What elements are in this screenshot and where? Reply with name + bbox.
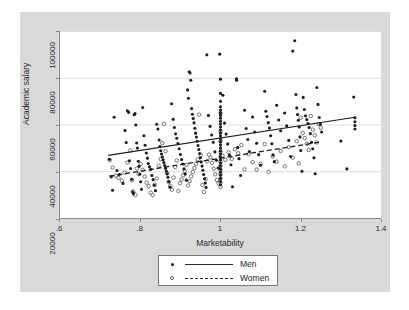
x-tick-mark: [220, 219, 221, 222]
y-tick-label: 40000: [48, 171, 57, 223]
y-tick-label: 60000: [48, 124, 57, 176]
legend-item-men: Men: [159, 257, 277, 271]
y-tick-label: 80000: [48, 77, 57, 129]
legend-label-women: Women: [237, 273, 269, 283]
chart-figure: Academic salary 200004000060000800001000…: [0, 0, 409, 310]
legend-open-circle-icon: [159, 276, 185, 280]
x-tick-mark: [301, 219, 302, 222]
scatter-canvas: [60, 31, 381, 218]
x-tick-mark: [381, 219, 382, 222]
x-tick-mark: [59, 219, 60, 222]
legend-solid-line-icon: [185, 264, 237, 265]
chart-legend: Men Women: [158, 255, 278, 286]
x-axis-title: Marketability: [59, 238, 381, 248]
x-tick-label: .6: [44, 224, 74, 233]
y-tick-label: 100000: [48, 30, 57, 82]
legend-label-men: Men: [237, 259, 257, 269]
x-tick-label: 1: [205, 224, 235, 233]
x-tick-label: 1.4: [366, 224, 396, 233]
y-tick-mark: [56, 125, 59, 126]
legend-item-women: Women: [159, 271, 277, 285]
x-tick-label: .8: [125, 224, 155, 233]
x-tick-mark: [140, 219, 141, 222]
y-tick-mark: [56, 31, 59, 32]
x-tick-label: 1.2: [286, 224, 316, 233]
series-women-points: [108, 112, 323, 197]
plot-area: [59, 31, 381, 219]
y-tick-mark: [56, 78, 59, 79]
y-tick-mark: [56, 172, 59, 173]
y-axis-title: Academic salary: [21, 63, 31, 125]
legend-dashed-line-icon: [185, 278, 237, 279]
legend-filled-circle-icon: [159, 263, 185, 266]
